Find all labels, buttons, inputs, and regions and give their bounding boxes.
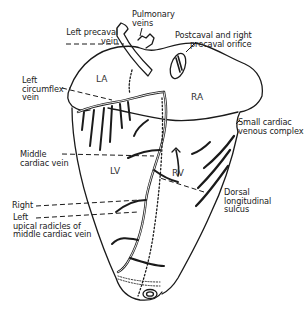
label-small-cardiac-venous-complex: Small cardiac venous complex bbox=[238, 118, 303, 135]
chamber-label-rv: RV bbox=[172, 168, 184, 178]
apex-whorl bbox=[143, 290, 157, 299]
label-left-precaval-vein: Left precaval vein bbox=[44, 28, 118, 45]
leader-dorsal-sulcus bbox=[160, 178, 204, 192]
label-middle-cardiac-vein: Middle cardiac vein bbox=[20, 150, 68, 167]
leader-pulmonary bbox=[140, 28, 142, 36]
label-postcaval-orifice: Postcaval and right precaval orifice bbox=[175, 31, 252, 48]
av-groove bbox=[108, 108, 238, 121]
label-left-circumflex-vein: Left circumflex vein bbox=[22, 76, 64, 102]
label-left-apical-radicles: Left upical radicles of middle cardiac v… bbox=[13, 213, 91, 239]
interatrial-dotted bbox=[129, 70, 132, 94]
la-lower-edge bbox=[68, 88, 90, 111]
chamber-label-lv: LV bbox=[110, 166, 120, 176]
chamber-label-la: LA bbox=[96, 74, 107, 84]
heart-diagram: LA RA LV RV Pulmonary veins Left precava… bbox=[0, 0, 308, 315]
chamber-label-ra: RA bbox=[191, 92, 203, 102]
label-dorsal-longitudinal-sulcus: Dorsal longitudinal sulcus bbox=[224, 188, 271, 214]
label-pulmonary-veins: Pulmonary veins bbox=[132, 10, 175, 27]
label-right: Right bbox=[12, 201, 33, 210]
apex-band-dotted bbox=[118, 276, 160, 286]
